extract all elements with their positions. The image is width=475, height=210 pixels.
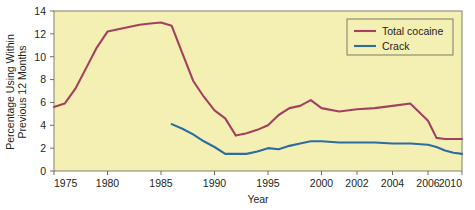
y-tick-label: 8 xyxy=(40,73,46,85)
y-axis-title: Percentage Using Within Previous 12 Mont… xyxy=(4,34,28,150)
y-tick-label: 14 xyxy=(34,5,46,17)
x-tick-label: 2000 xyxy=(310,177,334,189)
line-chart: 02468101214 1975198019851990199520002002… xyxy=(0,0,475,210)
y-tick-label: 4 xyxy=(40,119,46,131)
x-tick-label: 2004 xyxy=(381,177,405,189)
legend: Total cocaineCrack xyxy=(347,19,453,55)
y-axis: 02468101214 xyxy=(34,5,54,177)
y-tick-label: 0 xyxy=(40,165,46,177)
y-axis-title-line1: Percentage Using Within xyxy=(4,34,16,150)
y-axis-title-line2: Previous 12 Months xyxy=(16,46,28,139)
x-tick-label: 1990 xyxy=(203,177,227,189)
x-tick-label: 2002 xyxy=(345,177,369,189)
chart-canvas: 02468101214 1975198019851990199520002002… xyxy=(0,0,475,210)
y-tick-label: 12 xyxy=(34,28,46,40)
x-tick-label: 2010 xyxy=(439,177,463,189)
legend-label-total-cocaine: Total cocaine xyxy=(382,25,443,37)
x-tick-label: 1985 xyxy=(149,177,173,189)
x-axis: 1975198019851990199520002002200420062010 xyxy=(54,171,462,189)
x-tick-label: 1975 xyxy=(54,177,78,189)
x-tick-label: 1980 xyxy=(96,177,120,189)
y-tick-label: 6 xyxy=(40,96,46,108)
x-tick-label: 1995 xyxy=(256,177,280,189)
x-axis-title: Year xyxy=(247,193,269,205)
y-tick-label: 10 xyxy=(34,51,46,63)
x-tick-label: 2006 xyxy=(416,177,440,189)
y-tick-label: 2 xyxy=(40,142,46,154)
legend-label-crack: Crack xyxy=(382,40,410,52)
